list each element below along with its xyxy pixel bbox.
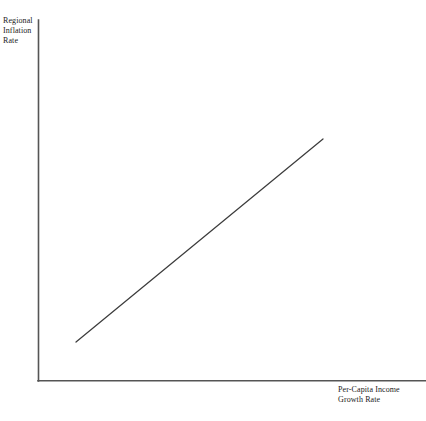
y-axis-label-line-2: Inflation xyxy=(3,26,33,36)
chart-figure: Regional Inflation Rate Per-Capita Incom… xyxy=(0,0,426,421)
x-axis-label-line-1: Per-Capita Income xyxy=(338,385,400,395)
x-axis-label: Per-Capita Income Growth Rate xyxy=(338,385,400,405)
y-axis-label-line-1: Regional xyxy=(3,16,33,26)
x-axis-label-line-2: Growth Rate xyxy=(338,395,400,405)
y-axis-label: Regional Inflation Rate xyxy=(3,16,33,46)
data-series-line xyxy=(76,139,323,342)
chart-canvas xyxy=(0,0,426,421)
y-axis-label-line-3: Rate xyxy=(3,36,33,46)
